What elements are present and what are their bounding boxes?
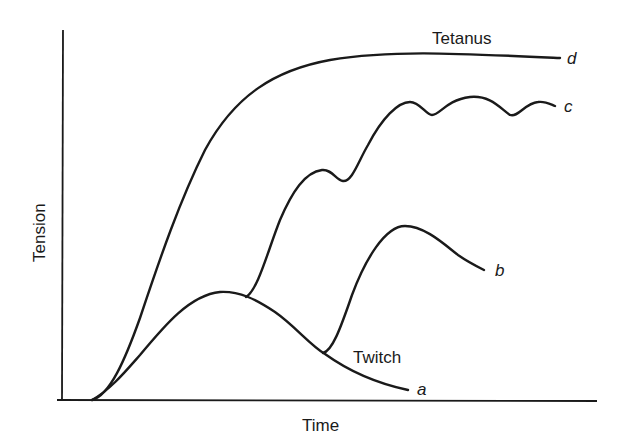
curve-d-letter: d <box>567 49 577 68</box>
x-axis <box>57 400 597 401</box>
tetanus-label: Tetanus <box>432 29 492 48</box>
y-axis <box>62 30 63 400</box>
x-axis-label: Time <box>302 416 339 435</box>
curve-b-letter: b <box>495 261 504 280</box>
twitch-label: Twitch <box>353 348 401 367</box>
curve-d-tetanus <box>92 53 560 400</box>
curve-c-unfused-tetanus <box>246 97 555 297</box>
curve-c-letter: c <box>564 97 573 116</box>
y-axis-label: Tension <box>30 203 49 262</box>
curve-b-summation <box>323 226 484 353</box>
curve-a-twitch <box>92 292 408 400</box>
tension-time-diagram: Tetanus Twitch d c b a Time Tension <box>0 0 620 443</box>
axes <box>57 30 597 401</box>
curve-a-letter: a <box>417 380 426 399</box>
